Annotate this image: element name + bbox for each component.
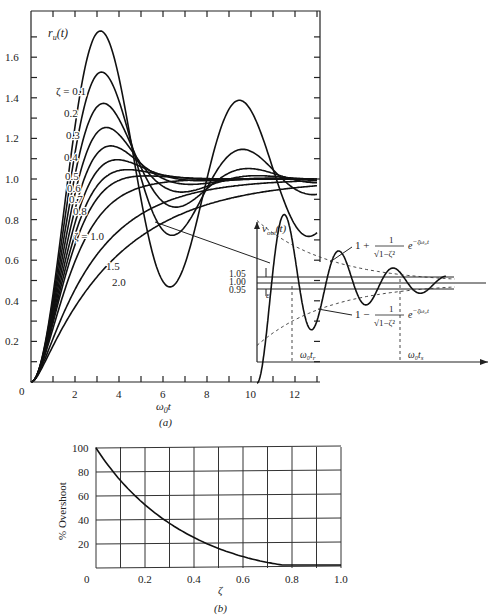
overshoot-grid (96, 446, 341, 568)
a-y-tick-label: 1.2 (5, 132, 19, 144)
b-y-tick-label: 100 (72, 442, 89, 454)
curve-label: 2.0 (112, 276, 126, 288)
b-y-tick-label: 20 (78, 538, 90, 550)
panel-a: 246810120.20.40.60.81.01.21.41.6 ζ = 0.1… (5, 11, 320, 429)
inset-epsilon: ε (266, 290, 270, 300)
b-x-tick-label: 0.6 (236, 573, 250, 585)
curve-zeta-0.3 (31, 103, 317, 382)
a-x-tick-label: 4 (116, 388, 122, 400)
a-y-axis-label: ru(t) (48, 26, 68, 42)
inset-y-095: 0.95 (229, 285, 246, 295)
rise-time-label: ω₀tr (300, 350, 316, 362)
panel-b: 2040608010000.20.40.60.81.0 % Overshoot … (56, 442, 348, 615)
lower-frac-den: √1−ζ² (374, 318, 395, 328)
b-x-axis-label: ζ (218, 584, 224, 597)
a-y-tick-label: 0.8 (5, 214, 19, 226)
curve-label: 0.4 (64, 151, 78, 163)
b-x-tick-label: 0 (84, 573, 90, 585)
figure: 246810120.20.40.60.81.01.21.41.6 ζ = 0.1… (0, 0, 493, 615)
b-y-tick-label: 60 (78, 490, 90, 502)
a-y-tick-label: 0.6 (5, 254, 19, 266)
panel-b-tick-labels: 2040608010000.20.40.60.81.0 (72, 442, 348, 585)
a-x-tick-label: 12 (289, 388, 300, 400)
b-x-tick-label: 1.0 (334, 573, 348, 585)
lower-frac-num: 1 (389, 304, 394, 314)
a-x-tick-label: 10 (245, 388, 257, 400)
curve-label: ζ = 1.0 (74, 230, 105, 243)
a-x-tick-label: 8 (204, 388, 210, 400)
a-caption: (a) (159, 416, 172, 429)
curve-label: 0.8 (73, 205, 87, 217)
curve-label: 1.5 (106, 260, 120, 272)
curve-label: ζ = 0.1 (56, 85, 86, 98)
b-y-tick-label: 40 (78, 514, 90, 526)
curve-label: 0.3 (66, 129, 80, 141)
lower-envelope-label: 1 − (355, 308, 369, 320)
upper-frac-den: √1−ζ² (374, 249, 395, 259)
b-x-tick-label: 0.4 (187, 573, 201, 585)
b-y-axis-label: % Overshoot (56, 482, 68, 540)
a-x-tick-label: 2 (72, 388, 78, 400)
curve-label: 0.5 (65, 170, 79, 182)
a-y-tick-label: 1.4 (5, 92, 19, 104)
b-x-tick-label: 0.8 (285, 573, 299, 585)
b-caption: (b) (214, 602, 227, 615)
b-x-tick-label: 0.2 (138, 573, 152, 585)
a-y-tick-label: 0.2 (5, 335, 19, 347)
inset-y-axis-label: vout(t) (262, 222, 287, 237)
a-x-tick-label: 6 (160, 388, 166, 400)
b-y-tick-label: 80 (78, 466, 90, 478)
settling-time-label: ω₀ts (408, 350, 424, 362)
curve-label: 0.7 (69, 193, 83, 205)
upper-envelope-label: 1 + (355, 239, 369, 251)
a-y-tick-label: 1.6 (5, 51, 19, 63)
a-y-tick-label: 0.4 (5, 295, 19, 307)
a-x-axis-label: ω0t (156, 400, 172, 415)
upper-frac-num: 1 (389, 235, 394, 245)
inset-envelope-plot: vout(t) 1.05 1.00 0.95 ε 1 + 1 √1−ζ² e−ζ… (229, 215, 488, 383)
lower-exp: e−ζω₀t (408, 307, 430, 320)
upper-exp: e−ζω₀t (408, 238, 430, 251)
a-origin-label: 0 (19, 385, 25, 397)
a-y-tick-label: 1.0 (5, 173, 19, 185)
curve-label: 0.2 (64, 107, 78, 119)
